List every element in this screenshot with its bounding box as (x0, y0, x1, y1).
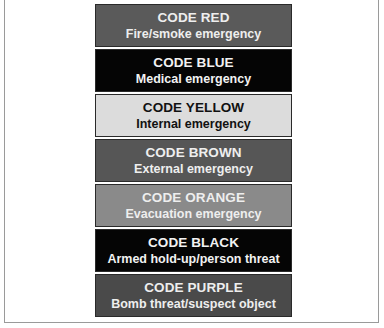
code-brown-box: CODE BROWN External emergency (95, 139, 292, 182)
code-yellow-box: CODE YELLOW Internal emergency (95, 94, 292, 137)
code-description: Medical emergency (136, 71, 251, 87)
code-description: Armed hold-up/person threat (107, 251, 279, 267)
code-blue-box: CODE BLUE Medical emergency (95, 49, 292, 92)
code-title: CODE BLACK (148, 235, 239, 251)
code-title: CODE ORANGE (142, 190, 245, 206)
code-purple-box: CODE PURPLE Bomb threat/suspect object (95, 274, 292, 317)
code-red-box: CODE RED Fire/smoke emergency (95, 4, 292, 47)
code-title: CODE RED (157, 10, 229, 26)
emergency-code-stack: CODE RED Fire/smoke emergency CODE BLUE … (95, 4, 292, 319)
code-description: Fire/smoke emergency (126, 26, 262, 42)
code-title: CODE BLUE (153, 55, 233, 71)
code-description: Bomb threat/suspect object (111, 296, 276, 312)
code-title: CODE BROWN (145, 145, 241, 161)
code-title: CODE PURPLE (144, 280, 243, 296)
code-description: External emergency (134, 161, 253, 177)
code-orange-box: CODE ORANGE Evacuation emergency (95, 184, 292, 227)
code-title: CODE YELLOW (143, 100, 244, 116)
code-black-box: CODE BLACK Armed hold-up/person threat (95, 229, 292, 272)
code-description: Internal emergency (136, 116, 251, 132)
code-description: Evacuation emergency (125, 206, 261, 222)
